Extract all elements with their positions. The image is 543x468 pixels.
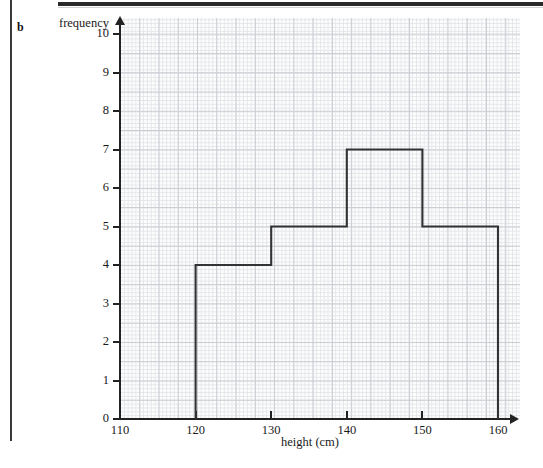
y-tick-mark: [113, 187, 121, 189]
y-tick-label: 9: [83, 66, 109, 78]
y-axis-line: [119, 24, 121, 420]
histogram-chart: 012345678910 110120130140150160 frequenc…: [0, 0, 543, 468]
page-canvas: b 012345678910 110120130140150160 freque…: [0, 0, 543, 468]
y-tick-label: 0: [83, 412, 109, 424]
y-tick-mark: [113, 149, 121, 151]
y-tick-mark: [113, 72, 121, 74]
x-tick-label: 110: [100, 424, 140, 437]
y-tick-mark: [113, 418, 121, 420]
x-tick-mark: [270, 411, 272, 420]
x-axis-label: height (cm): [200, 436, 420, 449]
y-tick-mark: [113, 341, 121, 343]
y-tick-mark: [113, 110, 121, 112]
chart-gridlines: [120, 18, 520, 419]
y-tick-label: 7: [83, 143, 109, 155]
x-tick-mark: [497, 411, 499, 420]
y-axis-label: frequency: [59, 17, 109, 30]
x-tick-mark: [346, 411, 348, 420]
y-tick-label: 4: [83, 258, 109, 270]
y-tick-label: 5: [83, 220, 109, 232]
x-tick-mark: [195, 411, 197, 420]
x-axis-line: [119, 418, 513, 420]
x-tick-label: 160: [478, 424, 518, 437]
x-tick-mark: [421, 411, 423, 420]
y-axis-arrow-icon: [115, 16, 125, 25]
y-tick-mark: [113, 303, 121, 305]
y-tick-mark: [113, 33, 121, 35]
x-axis-arrow-icon: [510, 414, 519, 424]
y-tick-label: 1: [83, 374, 109, 386]
y-tick-label: 8: [83, 104, 109, 116]
y-tick-mark: [113, 226, 121, 228]
y-tick-label: 3: [83, 297, 109, 309]
y-tick-mark: [113, 380, 121, 382]
y-tick-label: 2: [83, 335, 109, 347]
y-tick-label: 6: [83, 181, 109, 193]
y-tick-mark: [113, 264, 121, 266]
